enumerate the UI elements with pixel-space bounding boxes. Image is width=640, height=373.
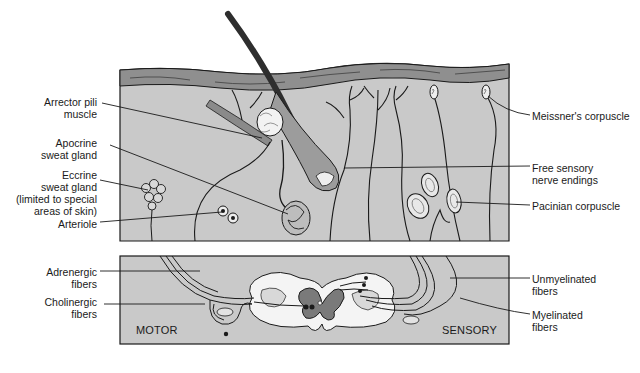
label-unmyelinated-fibers: Unmyelinated fibers bbox=[532, 273, 596, 297]
label-cholinergic-fibers: Cholinergic fibers bbox=[44, 296, 97, 320]
label-apocrine-sweat-gland: Apocrine sweat gland bbox=[41, 137, 97, 161]
label-pacinian-corpuscle: Pacinian corpuscle bbox=[532, 200, 620, 212]
label-arteriole: Arteriole bbox=[58, 218, 97, 230]
label-arrector-pili-muscle: Arrector pili muscle bbox=[44, 96, 97, 120]
motor-ganglion bbox=[217, 308, 233, 316]
label-meissners-corpuscle: Meissner's corpuscle bbox=[532, 110, 630, 122]
apocrine-sweat-gland bbox=[282, 201, 310, 235]
sebaceous-gland bbox=[257, 108, 283, 136]
label-eccrine-sweat-gland: Eccrine sweat gland (limited to special … bbox=[16, 169, 97, 217]
label-myelinated-fibers: Myelinated fibers bbox=[532, 309, 583, 333]
label-adrenergic-fibers: Adrenergic fibers bbox=[46, 266, 97, 290]
sensory-tag: SENSORY bbox=[442, 324, 497, 336]
sensory-ganglion bbox=[403, 316, 419, 324]
label-free-sensory-nerve-endings: Free sensory nerve endings bbox=[532, 162, 598, 186]
motor-tag: MOTOR bbox=[136, 324, 178, 336]
skin-panel bbox=[100, 14, 530, 241]
